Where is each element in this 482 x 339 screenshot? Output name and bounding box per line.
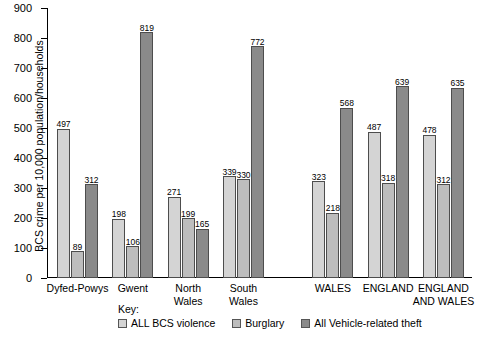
bar: 165: [196, 229, 209, 279]
legend-item[interactable]: Burglary: [232, 317, 284, 329]
bar: 330: [237, 179, 250, 278]
bar-value-label: 635: [450, 79, 464, 88]
legend-items: ALL BCS violenceBurglaryAll Vehicle-rela…: [118, 317, 439, 329]
bar: 312: [85, 184, 98, 278]
y-axis-tick-label: 400: [14, 152, 32, 164]
y-axis-tick: 600: [41, 98, 47, 99]
legend-swatch-icon: [232, 319, 241, 328]
y-axis-tick: 0: [41, 278, 47, 279]
y-axis-tick: 800: [41, 38, 47, 39]
y-axis-tick-label: 0: [26, 272, 32, 284]
bar-value-label: 568: [340, 99, 354, 108]
bar-value-label: 819: [140, 24, 154, 33]
y-axis-tick-label: 300: [14, 182, 32, 194]
y-axis-title: BCS crime per 10,000 population/househol…: [33, 11, 45, 281]
legend-item-label: ALL BCS violence: [131, 317, 215, 329]
bar: 568: [340, 108, 353, 278]
bar: 339: [223, 176, 236, 278]
plot-area: 0100200300400500600700800900 49789312198…: [47, 8, 472, 278]
bar-value-label: 339: [222, 168, 236, 177]
y-axis-tick-label: 500: [14, 122, 32, 134]
bar-value-label: 772: [250, 38, 264, 47]
x-axis-group-label: ENGLAND AND WALES: [399, 282, 482, 307]
y-axis-tick-label: 200: [14, 212, 32, 224]
bar-value-label: 198: [112, 210, 126, 219]
bar-value-label: 165: [195, 220, 209, 229]
bar: 271: [168, 197, 181, 278]
legend-swatch-icon: [118, 319, 127, 328]
bar-value-label: 312: [84, 176, 98, 185]
bar: 199: [182, 218, 195, 278]
legend-title: Key:: [118, 303, 139, 315]
bar-value-label: 106: [126, 238, 140, 247]
y-axis-tick: 900: [41, 8, 47, 9]
y-axis-tick-label: 800: [14, 32, 32, 44]
y-axis-tick: 100: [41, 248, 47, 249]
legend-swatch-icon: [301, 319, 310, 328]
legend-item-label: All Vehicle-related theft: [314, 317, 421, 329]
bar-value-label: 89: [73, 243, 82, 252]
bar-value-label: 271: [167, 188, 181, 197]
bar: 89: [71, 251, 84, 278]
bar-chart: BCS crime per 10,000 population/househol…: [0, 0, 482, 339]
bar: 635: [451, 88, 464, 279]
bar-value-label: 330: [236, 171, 250, 180]
bar: 218: [326, 213, 339, 278]
bar-value-label: 639: [395, 78, 409, 87]
bar-value-label: 318: [381, 174, 395, 183]
y-axis-tick-label: 600: [14, 92, 32, 104]
y-axis-tick: 200: [41, 218, 47, 219]
y-axis-tick-label: 100: [14, 242, 32, 254]
y-axis-tick: 500: [41, 128, 47, 129]
bar-value-label: 218: [326, 204, 340, 213]
bar: 478: [423, 135, 436, 278]
bar-value-label: 478: [422, 126, 436, 135]
y-axis-tick: 300: [41, 188, 47, 189]
bar: 312: [437, 184, 450, 278]
bar: 772: [251, 46, 264, 278]
y-axis-tick-label: 900: [14, 2, 32, 14]
bar-value-label: 312: [436, 176, 450, 185]
bar-value-label: 199: [181, 210, 195, 219]
bar: 323: [312, 181, 325, 278]
bar: 318: [382, 183, 395, 278]
bar-value-label: 497: [56, 120, 70, 129]
legend-item[interactable]: All Vehicle-related theft: [301, 317, 421, 329]
bar: 639: [396, 86, 409, 278]
y-axis-tick: 400: [41, 158, 47, 159]
y-axis-tick-label: 700: [14, 62, 32, 74]
bar: 198: [112, 219, 125, 278]
bar: 487: [368, 132, 381, 278]
y-axis-line: [47, 8, 48, 278]
bar: 819: [140, 32, 153, 278]
bar: 497: [57, 129, 70, 278]
bar-value-label: 487: [367, 123, 381, 132]
bar-value-label: 323: [312, 173, 326, 182]
bar: 106: [126, 246, 139, 278]
legend-item-label: Burglary: [245, 317, 284, 329]
legend-item[interactable]: ALL BCS violence: [118, 317, 215, 329]
y-axis-tick: 700: [41, 68, 47, 69]
x-axis-group-label: South Wales: [199, 282, 289, 307]
